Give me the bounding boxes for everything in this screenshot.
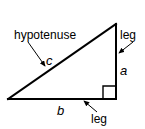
leg-right-pointer-arrow — [119, 42, 133, 53]
right-triangle-diagram: hypotenuse leg leg c a b — [0, 0, 145, 129]
side-b-label: b — [57, 104, 64, 117]
side-c-label: c — [46, 54, 53, 67]
leg-bottom-label: leg — [91, 113, 107, 125]
leg-bottom-pointer-arrow — [84, 101, 97, 112]
side-a-label: a — [120, 64, 127, 77]
hypotenuse-label: hypotenuse — [14, 29, 76, 41]
leg-right-label: leg — [120, 29, 136, 41]
hypotenuse-pointer-arrow — [28, 42, 45, 66]
right-angle-marker — [103, 86, 115, 98]
